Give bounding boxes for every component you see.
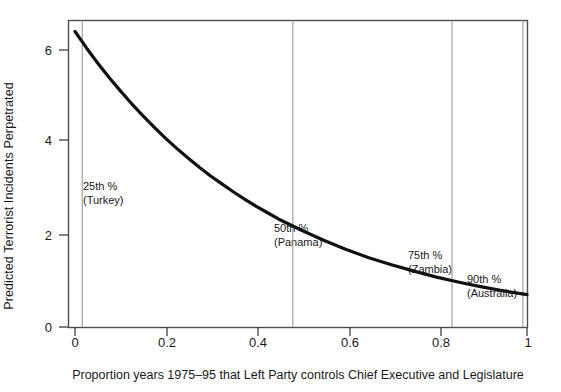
prediction-curve [75,32,527,295]
y-axis-ticks [59,50,69,327]
plot-area-svg [0,0,561,392]
x-axis-ticks [75,328,527,337]
chart-figure: Predicted Terrorist Incidents Perpetrate… [0,0,561,392]
